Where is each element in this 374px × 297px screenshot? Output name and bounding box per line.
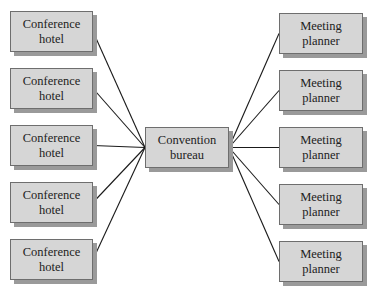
- node-label-line2: planner: [300, 262, 342, 277]
- connector-line: [229, 148, 279, 262]
- connector-line: [229, 34, 279, 148]
- node-label-line1: Conference: [23, 188, 81, 203]
- meeting-planner-node: Meeting planner: [279, 127, 363, 168]
- node-label-line1: Meeting: [300, 190, 342, 205]
- conference-hotel-node: Conference hotel: [10, 11, 93, 52]
- node-label-line1: Conference: [23, 74, 81, 89]
- meeting-planner-node: Meeting planner: [279, 70, 363, 111]
- node-label-line1: Meeting: [300, 133, 342, 148]
- conference-hotel-node: Conference hotel: [10, 182, 93, 223]
- connector-line: [93, 148, 145, 260]
- hub-spoke-diagram: Convention bureau Conference hotel Confe…: [0, 0, 374, 297]
- meeting-planner-node: Meeting planner: [279, 241, 363, 282]
- convention-bureau-node: Convention bureau: [145, 127, 229, 168]
- node-label-line2: hotel: [23, 146, 81, 161]
- node-label-line2: hotel: [23, 260, 81, 275]
- node-label-line1: Meeting: [300, 247, 342, 262]
- meeting-planner-node: Meeting planner: [279, 13, 363, 54]
- connector-line: [93, 89, 145, 148]
- conference-hotel-node: Conference hotel: [10, 239, 93, 280]
- node-label-line2: planner: [300, 148, 342, 163]
- connector-line: [93, 32, 145, 148]
- node-label-line2: planner: [300, 205, 342, 220]
- meeting-planner-node: Meeting planner: [279, 184, 363, 225]
- node-label-line2: hotel: [23, 89, 81, 104]
- hub-label-line1: Convention: [158, 133, 216, 148]
- node-label-line1: Meeting: [300, 19, 342, 34]
- node-label-line2: planner: [300, 91, 342, 106]
- connector-line: [93, 146, 145, 148]
- node-label-line2: planner: [300, 34, 342, 49]
- connector-line: [229, 148, 279, 205]
- connector-line: [93, 148, 145, 203]
- node-label-line2: hotel: [23, 32, 81, 47]
- connector-line: [229, 91, 279, 148]
- node-label-line1: Conference: [23, 131, 81, 146]
- node-label-line1: Conference: [23, 17, 81, 32]
- node-label-line1: Conference: [23, 245, 81, 260]
- conference-hotel-node: Conference hotel: [10, 68, 93, 109]
- node-label-line2: hotel: [23, 203, 81, 218]
- hub-label-line2: bureau: [158, 148, 216, 163]
- node-label-line1: Meeting: [300, 76, 342, 91]
- conference-hotel-node: Conference hotel: [10, 125, 93, 166]
